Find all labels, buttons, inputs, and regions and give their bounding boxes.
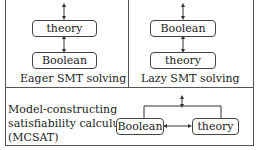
mcsat-bracket	[144, 106, 221, 118]
eager-theory-box: theory	[32, 20, 97, 37]
lazy-theory-box: theory	[150, 52, 216, 69]
eager-caption: Eager SMT solving	[20, 72, 126, 85]
lazy-boolean-box: Boolean	[150, 20, 216, 37]
mcsat-theory-box: theory	[192, 118, 239, 135]
mcsat-caption-line-3: (MCSAT)	[8, 131, 125, 145]
eager-boolean-box: Boolean	[32, 52, 97, 69]
lazy-caption: Lazy SMT solving	[141, 72, 240, 85]
mcsat-caption-line-2: satisfiability calculus	[8, 117, 125, 131]
mcsat-caption-line-1: Model-constructing	[8, 103, 125, 117]
mcsat-caption: Model-constructing satisfiability calcul…	[8, 103, 125, 145]
mcsat-boolean-box: Boolean	[116, 118, 164, 135]
